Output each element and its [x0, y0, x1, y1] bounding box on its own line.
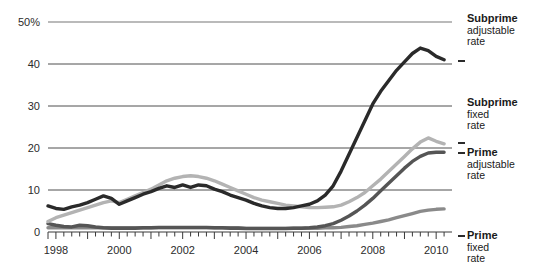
legend-leader-dash	[458, 152, 465, 154]
y-axis-tick-label: 0	[34, 226, 40, 238]
x-axis-tick-label: 1998	[44, 244, 68, 256]
series-lines-group	[48, 48, 444, 229]
gridlines-group	[48, 22, 452, 190]
y-axis-tick-label: 50%	[18, 16, 40, 28]
legend-item-prime-fixed-rate: Prime fixed rate	[467, 230, 498, 265]
x-axis-tick-label: 2004	[234, 244, 258, 256]
series-line	[48, 209, 444, 228]
x-axis-tick-label: 2000	[107, 244, 131, 256]
legend-title: Prime	[467, 230, 498, 242]
y-axis-tick-labels: 01020304050%	[18, 16, 40, 238]
x-axis-tick-label: 2010	[424, 244, 448, 256]
y-axis-tick-label: 30	[28, 100, 40, 112]
legend-title: Prime	[467, 147, 515, 159]
x-axis-tick-label: 2006	[297, 244, 321, 256]
legend-leader-dash	[458, 142, 465, 144]
x-axis-tick-labels: 1998200020022004200620082010	[44, 244, 449, 256]
legend-title: Subprime	[467, 13, 518, 25]
y-axis-tick-label: 10	[28, 184, 40, 196]
x-axis-tick-label: 2002	[170, 244, 194, 256]
legend-leader-dash	[458, 60, 465, 62]
legend-item-subprime-fixed-rate: Subprime fixed rate	[467, 97, 518, 132]
legend-title: Subprime	[467, 97, 518, 109]
legend-item-prime-adjustable-rate: Prime adjustable rate	[467, 147, 515, 182]
legend-subtitle-line3: rate	[467, 253, 498, 265]
chart-container: 01020304050% 199820002002200420062008201…	[0, 0, 534, 274]
x-axis-tick-label: 2008	[361, 244, 385, 256]
legend-subtitle-line3: rate	[467, 120, 518, 132]
legend-leader-dash	[458, 235, 465, 237]
series-line	[48, 138, 444, 222]
y-axis-tick-label: 20	[28, 142, 40, 154]
x-axis-ticks	[48, 232, 452, 239]
legend-subtitle-line3: rate	[467, 170, 515, 182]
legend-subtitle-line3: rate	[467, 36, 518, 48]
legend-item-subprime-adjustable-rate: Subprime adjustable rate	[467, 13, 518, 48]
line-chart-plot: 01020304050% 199820002002200420062008201…	[0, 0, 534, 274]
y-axis-tick-label: 40	[28, 58, 40, 70]
